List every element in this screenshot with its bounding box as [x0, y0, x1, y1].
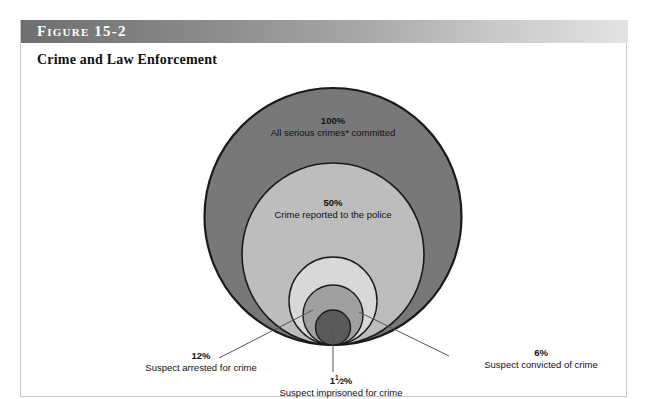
crime-funnel-diagram: 100% All serious crimes* committed 50% C…: [21, 20, 628, 397]
label-6-percent-value: 6%: [451, 347, 631, 359]
label-1-5-percent: 11⁄2% Suspect imprisoned for crime: [241, 375, 441, 399]
label-50-percent-description: Crime reported to the police: [233, 209, 433, 221]
label-1-5-percent-value: 11⁄2%: [241, 375, 441, 387]
label-100-percent: 100% All serious crimes* committed: [233, 115, 433, 139]
label-1-5-percent-description: Suspect imprisoned for crime: [241, 387, 441, 399]
label-50-percent: 50% Crime reported to the police: [233, 197, 433, 221]
figure-container: Figure 15-2 Crime and Law Enforcement 10…: [20, 20, 627, 397]
label-6-percent: 6% Suspect convicted of crime: [451, 347, 631, 371]
label-50-percent-value: 50%: [233, 197, 433, 209]
label-12-percent: 12% Suspect arrested for crime: [106, 350, 296, 374]
label-1-5-suffix: %: [344, 375, 352, 386]
label-12-percent-value: 12%: [106, 350, 296, 362]
label-6-percent-description: Suspect convicted of crime: [451, 359, 631, 371]
label-100-percent-value: 100%: [233, 115, 433, 127]
label-12-percent-description: Suspect arrested for crime: [106, 362, 296, 374]
label-100-percent-description: All serious crimes* committed: [233, 127, 433, 139]
